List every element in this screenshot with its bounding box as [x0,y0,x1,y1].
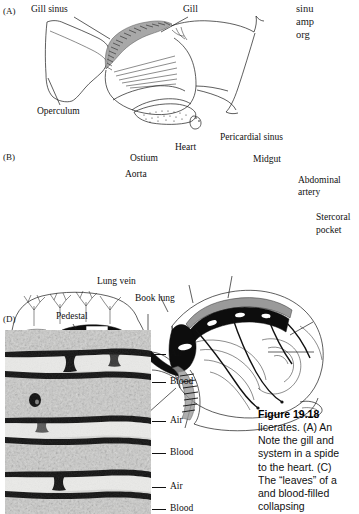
caption-title: Figure 19.18 [258,408,359,421]
panel-b-drawing [0,130,359,320]
panel-a-drawing [0,0,359,130]
leader-air-1 [152,354,166,355]
caption-line-2: Note the gill and [258,434,359,447]
label-air-1: Air [170,348,183,358]
leader-blood-1 [152,382,166,383]
label-blood-2: Blood [170,447,193,457]
leader-blood-2 [152,453,166,454]
figure-page: sinu amp org (A) Gill sinus Gill Opercul… [0,0,359,514]
caption-line-6: and blood-filled [258,487,359,500]
label-blood-3: Blood [170,503,193,513]
micrograph-image [5,330,151,514]
label-air-2: Air [170,415,183,425]
leader-blood-3 [152,509,166,510]
caption-line-5: The “leaves” of a [258,474,359,487]
caption-line-1: licerates. (A) An [258,421,359,434]
label-blood-1: Blood [170,376,193,386]
caption-line-7: collapsing [258,500,359,513]
label-air-3: Air [170,481,183,491]
book-lung-micrograph [5,330,151,514]
panel-d-letter: (D) [3,314,16,324]
caption-line-3: system in a spide [258,447,359,460]
label-pedestal: Pedestal [56,312,88,322]
figure-caption: Figure 19.18 licerates. (A) An Note the … [258,408,359,513]
leader-air-2 [152,421,166,422]
leader-air-3 [152,487,166,488]
caption-line-4: to the heart. (C) [258,461,359,474]
